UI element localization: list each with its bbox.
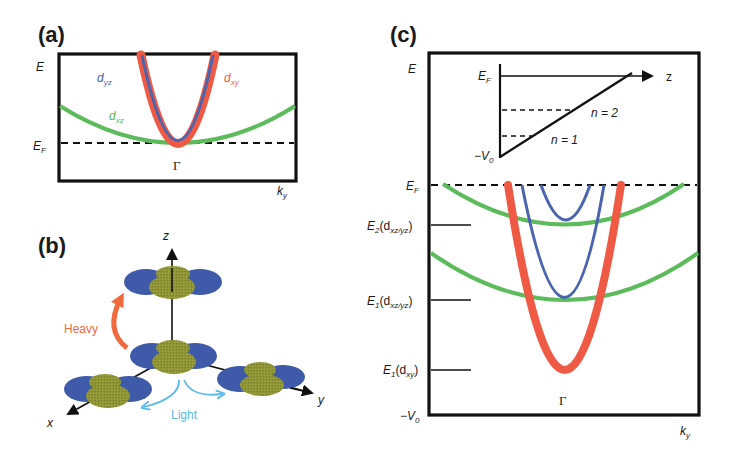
inset-v0-label: −V0 [474,149,494,165]
panel-a-ef-label: EF [33,139,47,155]
y-axis-label: y [317,393,325,407]
z-axis-label: z [162,229,169,243]
panel-a-gamma-label: Γ [173,158,181,173]
orbital-center [130,340,217,374]
inset-n2-label: n = 2 [591,106,618,120]
heavy-label: Heavy [64,322,98,336]
panel-a-dxz-band [60,106,295,143]
inset-ef-label: EF [478,69,492,85]
level-label-e2-dxz-yz: E2(dxz/yz) [367,219,412,235]
heavy-arrow [114,298,127,348]
panel-a-dxz-label: dxz [109,109,124,125]
orbital-top [124,266,222,299]
panel-a-dyz-label: dyz [97,71,112,87]
panel-c-y-axis-label: E [408,62,417,76]
green-band-n1 [431,253,698,300]
panel-a: (a) E EF ky Γ dyz dxy dxz [33,22,296,200]
panel-c-x-axis-label: ky [680,424,691,440]
inset-z-label: z [666,70,672,84]
panel-a-y-axis-label: E [36,60,45,74]
blue-band-n1 [522,185,604,298]
level-label-ef: EF [406,179,420,195]
panel-a-x-axis-label: ky [277,184,288,200]
panel-c-label: (c) [390,22,417,47]
level-label-e1-dxy: E1(dxy) [383,363,418,379]
light-label: Light [171,408,198,422]
inset-potential-well: EF −V0 z n = 2 n = 1 [474,64,672,165]
blue-band-n2 [541,185,590,220]
panel-c-frame [429,53,699,415]
orbital-x [64,374,152,408]
panel-b-label: (b) [38,233,66,258]
inset-n1-label: n = 1 [551,133,578,147]
figure: (a) E EF ky Γ dyz dxy dxz (b) z x y [0,0,733,454]
panel-b: (b) z x y [38,229,325,430]
level-label-neg-v0: −V0 [400,409,420,425]
panel-a-dyz-band [142,55,213,141]
panel-c-gamma-label: Γ [559,393,567,408]
orbital-y [217,362,312,396]
panel-a-dxy-label: dxy [224,71,240,87]
red-band-dxy [508,185,621,370]
light-arrow-y [184,380,222,395]
x-axis-label: x [46,416,54,430]
level-label-e1-dxz-yz: E1(dxz/yz) [367,294,412,310]
panel-c: (c) E EF −V0 z n = 2 n = 1 EF E2(dxz/yz)… [367,22,699,440]
panel-a-label: (a) [38,22,65,47]
